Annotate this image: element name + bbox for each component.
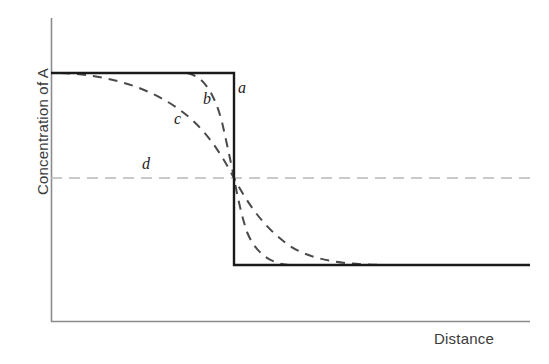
curve-label-b: b — [203, 90, 211, 108]
x-axis-title: Distance — [434, 330, 494, 347]
curve-a-step-path — [51, 73, 530, 265]
curve-label-d: d — [142, 155, 150, 173]
diffusion-concentration-figure: Concentration of A Distance a b c d — [0, 0, 549, 364]
curve-label-a: a — [238, 79, 246, 97]
curve-label-c: c — [174, 110, 181, 128]
y-axis-title: Concentration of A — [34, 68, 51, 195]
plot-area — [0, 0, 549, 364]
